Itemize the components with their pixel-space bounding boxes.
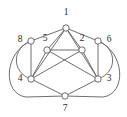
graph-vertex-3 (95, 76, 101, 82)
graph-vertex-7 (62, 93, 68, 99)
graph-vertex-label-1: 1 (64, 7, 69, 17)
graph-vertex-label-8: 8 (18, 34, 23, 44)
graph-vertex-6 (95, 38, 101, 44)
graph-canvas: 18526437 (0, 0, 127, 117)
graph-edge-3-7 (65, 79, 98, 96)
graph-vertex-label-5: 5 (43, 33, 48, 43)
graph-edge-8-7 (9, 41, 65, 97)
graph-edge-4-7 (31, 79, 65, 96)
nodes-layer (28, 25, 101, 99)
graph-vertex-label-4: 4 (18, 73, 23, 83)
graph-vertex-label-2: 2 (80, 33, 85, 43)
graph-vertex-2 (79, 47, 85, 53)
graph-vertex-label-7: 7 (63, 103, 68, 113)
edges-layer (9, 28, 119, 97)
graph-vertex-1 (63, 25, 69, 31)
graph-vertex-label-6: 6 (107, 34, 112, 44)
graph-vertex-label-3: 3 (107, 73, 112, 83)
graph-vertex-5 (44, 47, 50, 53)
graph-vertex-4 (28, 76, 34, 82)
graph-vertex-8 (28, 38, 34, 44)
graph-edge-1-4 (31, 28, 66, 79)
graph-figure: 18526437 (0, 0, 127, 117)
